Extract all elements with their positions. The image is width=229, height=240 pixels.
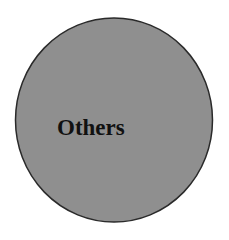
pie-chart: Others <box>0 0 229 240</box>
slice-label-others: Others <box>57 115 125 140</box>
